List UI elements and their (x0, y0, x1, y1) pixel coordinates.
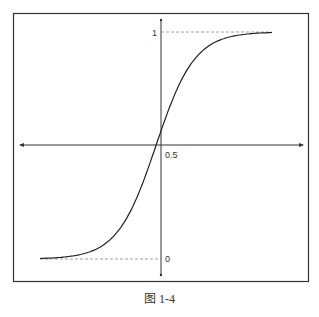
x-axis-arrow-right (299, 143, 304, 147)
y-tick-label-1: 1 (152, 28, 157, 38)
x-axis-arrow-left (19, 143, 24, 147)
y-tick-label-0.5: 0.5 (165, 150, 178, 160)
figure-caption: 图 1-4 (0, 289, 319, 307)
y-axis-top-end (160, 19, 162, 21)
sigmoid-chart: 1 0.5 0 (0, 0, 319, 317)
y-axis-bottom-end (160, 274, 162, 276)
y-tick-label-0: 0 (165, 254, 170, 264)
